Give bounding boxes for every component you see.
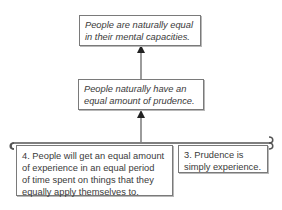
intermediate-line-2: equal amount of prudence. <box>84 95 203 107</box>
conclusion-line-2: in their mental capacities. <box>85 31 200 43</box>
premise-3-line-1: 3. Prudence is <box>184 149 267 161</box>
premise-3-line-2: simply experience. <box>184 161 267 173</box>
premise-4-line-4: equally apply themselves to. <box>22 186 172 198</box>
premise-4-box: 4. People will get an equal amount of ex… <box>16 145 173 196</box>
premise-4-line-2: of experience in an equal period <box>22 162 172 174</box>
conclusion-box: People are naturally equal in their ment… <box>79 15 201 46</box>
premise-3-box: 3. Prudence is simply experience. <box>178 145 268 173</box>
premise-4-line-3: of time spent on things that they <box>22 174 172 186</box>
intermediate-line-1: People naturally have an <box>84 83 203 95</box>
conclusion-line-1: People are naturally equal <box>85 19 200 31</box>
arrowhead-icon <box>137 45 145 53</box>
arrowhead-icon <box>137 110 145 118</box>
premise-4-line-1: 4. People will get an equal amount <box>22 150 172 162</box>
intermediate-box: People naturally have an equal amount of… <box>78 79 204 110</box>
